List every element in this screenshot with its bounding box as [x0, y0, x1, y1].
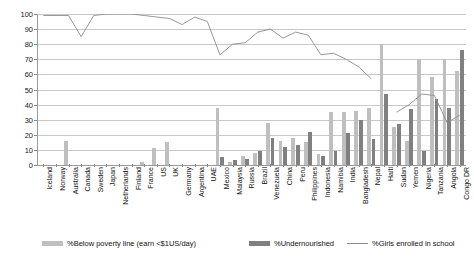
y-axis-tick-label: 10	[3, 147, 33, 155]
x-axis-tick-mark	[233, 164, 234, 167]
bar-below-poverty-line	[329, 112, 333, 165]
x-axis-tick-mark	[384, 164, 385, 167]
bar-group	[37, 14, 50, 165]
bar-group	[100, 14, 113, 165]
bar-below-poverty-line	[228, 162, 232, 165]
bar-group	[289, 14, 302, 165]
legend-item: %Girls enrolled in school	[347, 239, 455, 248]
bar-group	[62, 14, 75, 165]
legend-label: %Below poverty line (earn <$1US/day)	[67, 239, 196, 248]
bar-below-poverty-line	[392, 127, 396, 165]
bar-group	[239, 14, 252, 165]
bar-undernourished	[460, 50, 464, 165]
x-axis-label-slot: Peru	[289, 167, 302, 229]
x-axis-label-slot: Brazil	[252, 167, 265, 229]
x-axis-tick-mark	[144, 164, 145, 167]
bar-group	[50, 14, 63, 165]
x-axis-label-slot: Bangladesh	[352, 167, 365, 229]
y-axis-tick-label: 20	[3, 132, 33, 140]
y-axis-tick-label: 100	[3, 11, 33, 19]
bar-group	[416, 14, 429, 165]
x-axis-label-slot: Haiti	[378, 167, 391, 229]
y-axis-tick-label: 40	[3, 102, 33, 110]
x-axis-tick-mark	[245, 164, 246, 167]
bar-undernourished	[372, 139, 376, 165]
bar-group	[176, 14, 189, 165]
y-axis-tick-label: 90	[3, 26, 33, 34]
x-axis-label-slot: Malaysia	[226, 167, 239, 229]
bar-group	[378, 14, 391, 165]
legend-label: %Girls enrolled in school	[372, 239, 455, 248]
x-axis-tick-mark	[43, 164, 44, 167]
bar-group	[327, 14, 340, 165]
bar-group	[340, 14, 353, 165]
x-axis-label-slot: Namibia	[327, 167, 340, 229]
bar-below-poverty-line	[279, 141, 283, 165]
x-axis-label-slot: Iceland	[37, 167, 50, 229]
x-axis-tick-mark	[94, 164, 95, 167]
bar-below-poverty-line	[291, 138, 295, 165]
y-axis-tick-label: 0	[3, 162, 33, 170]
bar-group	[315, 14, 328, 165]
bar-undernourished	[447, 108, 451, 165]
x-axis-label-slot: Canada	[75, 167, 88, 229]
bar-undernourished	[271, 138, 275, 165]
chart-container: 0102030405060708090100 IcelandNorwayAust…	[0, 0, 474, 259]
x-axis-label-slot: Angola	[441, 167, 454, 229]
bar-group	[403, 14, 416, 165]
bar-below-poverty-line	[380, 44, 384, 165]
chart-legend: %Below poverty line (earn <$1US/day)%Und…	[0, 235, 474, 251]
bar-group	[214, 14, 227, 165]
bar-undernourished	[384, 94, 388, 165]
bar-below-poverty-line	[405, 141, 409, 165]
bar-group	[138, 14, 151, 165]
bar-group	[201, 14, 214, 165]
x-axis-label-slot: Congo DR	[453, 167, 466, 229]
x-axis-tick-mark	[258, 164, 259, 167]
bar-below-poverty-line	[216, 108, 220, 165]
x-axis-label-slot: UK	[163, 167, 176, 229]
bar-group	[113, 14, 126, 165]
bar-undernourished	[334, 151, 338, 165]
bar-group	[441, 14, 454, 165]
x-axis-label-slot: US	[151, 167, 164, 229]
bar-group	[188, 14, 201, 165]
x-axis-label-slot: Nepal	[365, 167, 378, 229]
bar-group	[151, 14, 164, 165]
bar-group	[252, 14, 265, 165]
x-axis-label-slot: Philippines	[302, 167, 315, 229]
x-axis-label-slot: Tanzania	[428, 167, 441, 229]
legend-item: %Undernourished	[249, 239, 334, 248]
bar-undernourished	[283, 147, 287, 165]
bar-below-poverty-line	[140, 162, 144, 165]
bar-group	[264, 14, 277, 165]
x-axis-tick-mark	[195, 164, 196, 167]
bar-below-poverty-line	[64, 141, 68, 165]
bar-undernourished	[359, 120, 363, 165]
x-axis-tick-mark	[182, 164, 183, 167]
bar-below-poverty-line	[342, 112, 346, 165]
legend-bar-swatch	[249, 241, 270, 246]
bar-undernourished	[346, 133, 350, 165]
x-axis-tick-mark	[270, 164, 271, 167]
y-axis-tick-label: 50	[3, 87, 33, 95]
x-axis-label-slot: Indonesia	[315, 167, 328, 229]
bar-below-poverty-line	[241, 156, 245, 165]
y-axis-tick-label: 70	[3, 56, 33, 64]
legend-item: %Below poverty line (earn <$1US/day)	[42, 239, 196, 248]
bar-group	[302, 14, 315, 165]
bar-group	[87, 14, 100, 165]
x-axis-label-slot: France	[138, 167, 151, 229]
bar-undernourished	[258, 151, 262, 165]
bar-below-poverty-line	[152, 148, 156, 165]
x-axis-label-slot: Australia	[62, 167, 75, 229]
x-axis-tick-mark	[69, 164, 70, 167]
x-axis-tick-mark	[220, 164, 221, 167]
x-axis-label-slot: Netherlands	[113, 167, 126, 229]
bar-below-poverty-line	[367, 108, 371, 165]
x-axis-label-slot: Sudan	[390, 167, 403, 229]
bar-group	[226, 14, 239, 165]
x-axis-label-slot: Venezuela	[264, 167, 277, 229]
y-axis-tick-label: 80	[3, 41, 33, 49]
bar-group	[163, 14, 176, 165]
